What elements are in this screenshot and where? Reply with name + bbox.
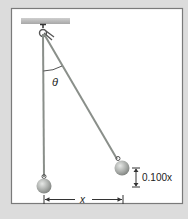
left-bob xyxy=(37,179,52,194)
diagram-canvas: θ 0.100x x xyxy=(0,0,188,219)
separation-label: x xyxy=(79,194,86,205)
theta-label: θ xyxy=(52,76,58,88)
ceiling-support xyxy=(21,18,70,24)
height-label: 0.100x xyxy=(142,172,172,183)
vertical-string xyxy=(43,34,44,177)
right-bob xyxy=(115,161,130,176)
pendulum-diagram: θ 0.100x x xyxy=(0,0,188,219)
